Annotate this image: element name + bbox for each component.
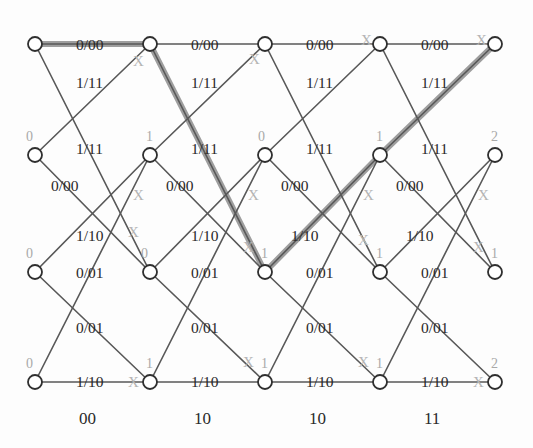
branch-label-1-10: 1/10 xyxy=(191,374,219,390)
eliminated-branch-x-icon: X xyxy=(128,225,139,240)
eliminated-branch-x-icon: X xyxy=(243,355,254,370)
branch-label-0-01: 0/01 xyxy=(191,320,219,336)
branch-label-0-01: 0/01 xyxy=(421,265,449,281)
branch-label-0-00: 0/00 xyxy=(421,37,449,53)
branch-label-1-11: 1/11 xyxy=(421,75,448,91)
branch-label-0-00: 0/00 xyxy=(396,178,424,194)
eliminated-branch-x-icon: X xyxy=(133,188,144,203)
branch-label-1-10: 1/10 xyxy=(406,228,434,244)
branch-label-0-01: 0/01 xyxy=(306,320,334,336)
path-metric: 1 xyxy=(376,357,383,371)
branch-label-0-00: 0/00 xyxy=(191,37,219,53)
path-metric: 1 xyxy=(261,357,268,371)
branch-label-1-10: 1/10 xyxy=(306,374,334,390)
branch-label-0-00: 0/00 xyxy=(166,178,194,194)
path-metric: 0 xyxy=(141,247,148,261)
eliminated-branch-x-icon: X xyxy=(476,33,487,48)
path-metric: 1 xyxy=(376,130,383,144)
path-metric: 0 xyxy=(26,357,33,371)
trellis-diagram: 0/00 0/00 0/00 0/00 1/11 1/11 1/11 1/11 … xyxy=(0,0,533,448)
branch-label-1-11: 1/11 xyxy=(191,75,218,91)
eliminated-branch-x-icon: X xyxy=(128,375,139,390)
path-metric: 1 xyxy=(491,247,498,261)
branch-label-1-10: 1/10 xyxy=(191,228,219,244)
branch-label-0-00: 0/00 xyxy=(51,178,79,194)
eliminated-branch-x-icon: X xyxy=(358,355,369,370)
branch-label-1-11: 1/11 xyxy=(306,75,333,91)
branch-label-1-10: 1/10 xyxy=(76,228,104,244)
eliminated-branch-x-icon: X xyxy=(248,188,259,203)
received-symbol: 11 xyxy=(424,410,440,427)
eliminated-branch-x-icon: X xyxy=(133,54,144,69)
eliminated-branch-x-icon: X xyxy=(478,188,489,203)
path-metric: 0 xyxy=(258,130,265,144)
eliminated-branch-x-icon: X xyxy=(361,33,372,48)
branch-label-0-01: 0/01 xyxy=(306,265,334,281)
branch-label-0-00: 0/00 xyxy=(281,178,309,194)
eliminated-branch-x-icon: X xyxy=(358,233,369,248)
branch-label-1-10: 1/10 xyxy=(291,228,319,244)
branch-label-1-11: 1/11 xyxy=(306,141,333,157)
eliminated-branch-x-icon: X xyxy=(363,188,374,203)
path-metric: 0 xyxy=(26,130,33,144)
eliminated-branch-x-icon: X xyxy=(473,240,484,255)
eliminated-branch-x-icon: X xyxy=(473,375,484,390)
received-symbol: 00 xyxy=(79,410,96,427)
branch-label-0-00: 0/00 xyxy=(76,37,104,53)
eliminated-branch-x-icon: X xyxy=(249,52,260,67)
received-symbol: 10 xyxy=(194,410,211,427)
branch-label-1-11: 1/11 xyxy=(76,75,103,91)
branch-label-0-01: 0/01 xyxy=(421,320,449,336)
branch-label-1-11: 1/11 xyxy=(76,141,103,157)
branch-label-1-10: 1/10 xyxy=(421,374,449,390)
branch-label-0-01: 0/01 xyxy=(76,320,104,336)
branch-label-0-01: 0/01 xyxy=(191,265,219,281)
branch-label-1-11: 1/11 xyxy=(421,141,448,157)
path-metric: 2 xyxy=(491,357,498,371)
branch-label-0-01: 0/01 xyxy=(76,265,104,281)
path-metric: 1 xyxy=(146,130,153,144)
eliminated-branch-x-icon: X xyxy=(243,240,254,255)
path-metric: 0 xyxy=(26,247,33,261)
path-metric: 1 xyxy=(261,247,268,261)
received-symbol: 10 xyxy=(309,410,326,427)
path-metric: 2 xyxy=(491,130,498,144)
branch-label-0-00: 0/00 xyxy=(306,37,334,53)
path-metric: 1 xyxy=(376,247,383,261)
branch-label-1-11: 1/11 xyxy=(191,141,218,157)
path-metric: 1 xyxy=(146,357,153,371)
branch-label-1-10: 1/10 xyxy=(76,374,104,390)
